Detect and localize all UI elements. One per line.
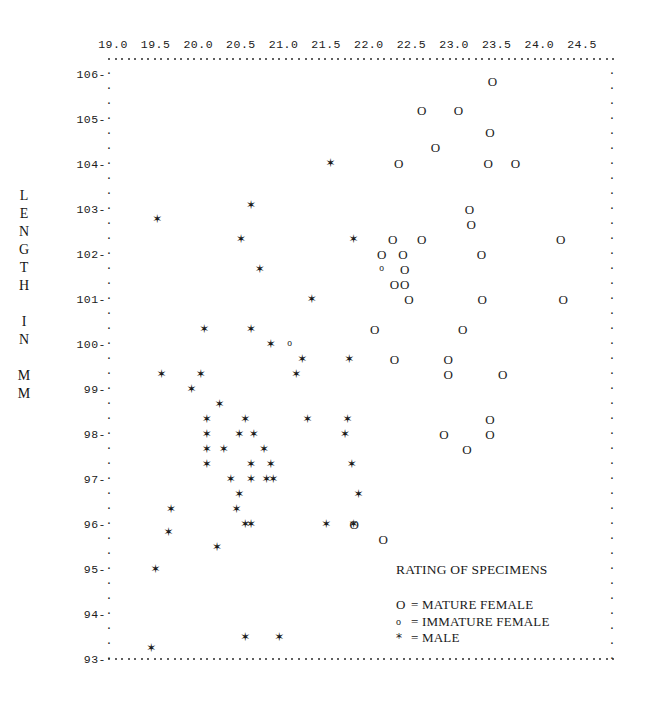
data-point-mature: O [390,278,399,291]
plot-right-border-dot: . [609,185,616,197]
legend: RATING OF SPECIMENS O= MATURE FEMALEo= I… [396,562,626,647]
y-axis-row-dot: . [106,185,113,197]
data-point-male: ✶ [151,563,161,575]
data-point-mature: O [443,352,452,365]
x-axis-border-dot [232,58,234,60]
y-axis-row-dot: . [106,635,113,647]
y-axis-title-char: N [19,224,29,240]
x-axis-border-dot [344,58,346,60]
y-axis-row-dot: . [106,395,113,407]
data-point-mature: O [466,217,475,230]
y-axis-row-dot: . [106,305,113,317]
x-axis-border-dot [213,58,215,60]
x-axis-tick-label: 23.0 [439,38,469,51]
x-axis-border-dot [481,58,483,60]
x-axis-border-dot [377,658,379,660]
y-axis-row-dot: . [106,560,113,572]
x-axis-border-dot [305,58,307,60]
y-axis-row-dot: . [106,215,113,227]
legend-label-male: = MALE [411,630,460,647]
x-axis-border-dot [409,658,411,660]
data-point-mature: O [454,104,463,117]
data-point-mature: O [400,278,409,291]
y-axis-row-dot: . [106,110,113,122]
x-axis-border-dot [449,58,451,60]
x-axis-border-dot [219,58,221,60]
x-axis-border-dot [501,58,503,60]
data-point-male: ✶ [297,353,307,365]
data-point-mature: O [556,233,565,246]
plot-right-border-dot: . [609,140,616,152]
x-axis-border-dot [534,58,536,60]
data-point-male: ✶ [219,443,229,455]
plot-right-border-dot: . [609,515,616,527]
y-axis-row-dot: . [106,335,113,347]
plot-right-border-dot: . [609,110,616,122]
data-point-male: ✶ [236,233,246,245]
y-axis-title-char: T [20,260,29,276]
x-axis-border-dot [174,58,176,60]
data-point-mature: O [400,262,409,275]
x-axis-border-dot [521,58,523,60]
legend-item-immature: o= IMMATURE FEMALE [396,614,626,631]
plot-right-border-dot: . [609,410,616,422]
y-axis-row-dot: . [106,470,113,482]
data-point-male: ✶ [146,642,156,654]
x-axis-border-dot [462,658,464,660]
x-axis-border-dot [298,58,300,60]
x-axis-tick-label: 22.0 [354,38,384,51]
x-axis-border-dot [324,58,326,60]
x-axis-border-dot [488,58,490,60]
plot-right-border-dot: . [609,545,616,557]
data-point-male: ✶ [212,541,222,553]
data-point-mature: O [417,104,426,117]
x-axis-border-dot [403,58,405,60]
data-point-male: ✶ [232,503,242,515]
x-axis-border-dot [291,58,293,60]
plot-right-border-dot: . [609,260,616,272]
plot-right-border-dot: . [609,125,616,137]
x-axis-border-dot [390,58,392,60]
data-point-male: ✶ [246,458,256,470]
y-axis-row-dot: . [106,275,113,287]
x-axis-border-dot [160,658,162,660]
x-axis-border-dot [141,658,143,660]
x-axis-border-dot [350,58,352,60]
y-axis-row-dot: . [106,485,113,497]
data-point-mature: O [485,125,494,138]
x-axis-border-dot [449,658,451,660]
x-axis-border-dot [154,658,156,660]
plot-right-border-dot: . [609,215,616,227]
x-axis-border-dot [278,658,280,660]
x-axis-border-dot [442,58,444,60]
plot-right-border-dot: . [609,440,616,452]
x-axis-border-dot [200,658,202,660]
data-point-mature: O [458,323,467,336]
plot-right-border-dot: . [609,245,616,257]
x-axis-border-dot [232,658,234,660]
data-point-male: ✶ [348,233,358,245]
data-point-male: ✶ [302,413,312,425]
x-axis-border-dot [252,58,254,60]
legend-item-male: *= MALE [396,630,626,647]
x-axis-border-dot [246,58,248,60]
x-axis-border-dot [612,58,614,60]
x-axis-border-dot [357,58,359,60]
x-axis-border-dot [278,58,280,60]
y-axis-tick-label: 93- [60,653,106,666]
data-point-male: ✶ [321,518,331,530]
y-axis-row-dot: . [106,575,113,587]
x-axis-border-dot [206,58,208,60]
x-axis-border-dot [553,58,555,60]
data-point-mature: O [439,428,448,441]
data-point-mature: O [488,74,497,87]
data-point-male: ✶ [246,473,256,485]
x-axis-border-dot [606,58,608,60]
x-axis-border-dot [580,58,582,60]
y-axis-tick-label: 105- [60,113,106,126]
legend-symbol-mature: O [396,597,411,614]
x-axis-border-dot [383,58,385,60]
x-axis-tick-label: 22.5 [397,38,427,51]
plot-right-border-dot: . [609,65,616,77]
x-axis-border-dot [442,658,444,660]
